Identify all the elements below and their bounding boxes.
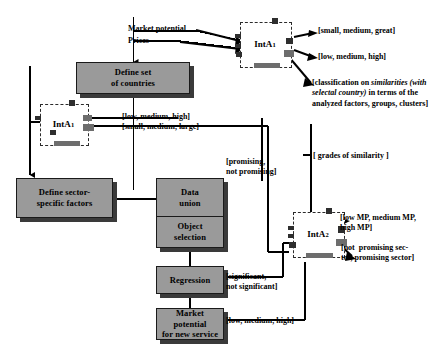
emphasis-similarities: similarities <box>371 78 407 87</box>
node-label-base: IntA <box>53 119 71 129</box>
process-box-define-set-of-countries[interactable]: Define set of countries <box>76 62 190 94</box>
annotation-small-medium-large: [small, medium, large] <box>122 122 199 132</box>
box-line: Regression <box>170 275 211 286</box>
box-line: Define sector- <box>37 187 93 198</box>
annotation-promising-not-promising: [promising, not promising] <box>226 157 276 178</box>
process-box-define-sector-specific-factors[interactable]: Define sector- specific factors <box>16 178 113 218</box>
process-box-market-potential-for-new-service[interactable]: Market potential for new service <box>156 308 224 340</box>
annotation-not-promising-sector: [not promising sec- tor, promising secto… <box>341 243 414 264</box>
box-line: selection <box>174 232 206 243</box>
box-line: specific factors <box>37 198 93 209</box>
annotation-classification-similarities: [classification on similarities (with se… <box>312 78 440 109</box>
annotation-low-medium-high-mid: [low, medium, high] <box>122 112 190 122</box>
box-line: Data <box>179 187 200 198</box>
annotation-grades-of-similarity: [ grades of similarity ] <box>313 151 389 161</box>
interaction-node-inta1-top[interactable]: IntA1 <box>240 22 290 66</box>
node-label-subscript: 2 <box>325 231 328 238</box>
node-label-subscript: 1 <box>272 41 275 48</box>
annotation-low-medium-high-bottom: [low, medium, high] <box>226 316 294 326</box>
emphasis-selected-country: (with selectal country) <box>312 78 426 97</box>
node-label: IntA2 <box>293 212 343 256</box>
box-line: Market potential <box>159 308 221 329</box>
node-label-subscript: 1 <box>71 121 74 128</box>
box-line: of countries <box>111 78 155 89</box>
box-line: Define set <box>111 67 155 78</box>
node-label: IntA1 <box>40 104 87 144</box>
node-label-base: IntA <box>307 229 325 239</box>
box-line: Object <box>174 221 206 232</box>
interaction-node-inta1-left[interactable]: IntA1 <box>40 104 87 144</box>
box-line: for new service <box>159 329 221 340</box>
interaction-node-inta2[interactable]: IntA2 <box>293 212 343 256</box>
node-label: IntA1 <box>240 22 290 66</box>
process-box-regression[interactable]: Regression <box>156 266 224 294</box>
annotation-low-mp-medium-mp-high-mp: [low MP, medium MP, high MP] <box>340 213 416 234</box>
process-box-data-union[interactable]: Data union <box>156 178 224 218</box>
node-label-base: IntA <box>254 39 272 49</box>
box-line: union <box>179 198 200 209</box>
process-box-object-selection[interactable]: Object selection <box>156 216 224 248</box>
input-label-prices: Prices <box>128 36 149 46</box>
annotation-low-medium-high-top: [low, medium, high] <box>318 52 386 62</box>
diagram-canvas: Define set of countries Define sector- s… <box>0 0 444 358</box>
annotation-small-medium-great: [small, medium, great] <box>318 26 395 36</box>
input-label-market-potential: Market potential <box>128 24 186 34</box>
annotation-significant-not-significant: [significant, not significant] <box>226 272 277 293</box>
